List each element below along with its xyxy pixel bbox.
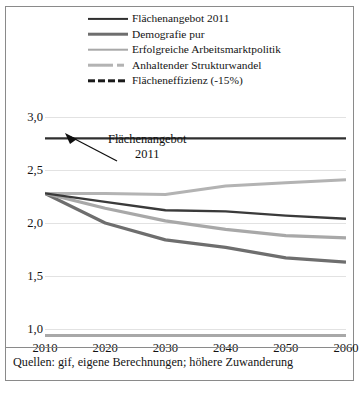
- x-axis-line: [45, 334, 346, 337]
- x-axis-ticklabel: 2010: [32, 341, 57, 356]
- legend-swatch-arbeitsmarktpolitik-icon: [88, 43, 128, 57]
- legend-swatch-flaechenangebot-icon: [88, 12, 128, 26]
- legend-item: Demografie pur: [6, 27, 353, 43]
- y-axis-ticklabel: 2,5: [27, 163, 43, 178]
- annotation-line1: Flächenangebot: [108, 132, 186, 147]
- legend-label: Erfolgreiche Arbeitsmarktpolitik: [132, 44, 281, 55]
- y-axis-ticklabel: 2,0: [27, 216, 43, 231]
- x-axis-ticklabel: 2050: [273, 341, 298, 356]
- legend-item: Flächeneffizienz (-15%): [6, 73, 353, 89]
- annotation-line2: 2011: [108, 147, 186, 162]
- x-axis-ticklabel: 2020: [93, 341, 118, 356]
- y-axis-ticklabel: 1,5: [27, 268, 43, 283]
- footer-divider: [6, 347, 353, 348]
- legend-item: Erfolgreiche Arbeitsmarktpolitik: [6, 42, 353, 58]
- legend-item: Flächenangebot 2011: [6, 11, 353, 27]
- legend-label: Demografie pur: [132, 29, 204, 40]
- x-axis-ticklabel: 2030: [153, 341, 178, 356]
- chart-legend: Flächenangebot 2011 Demografie pur Erfol…: [6, 11, 353, 89]
- figure-frame: Flächenangebot 2011 Demografie pur Erfol…: [5, 6, 354, 381]
- x-axis-ticklabel: 2060: [333, 341, 358, 356]
- y-axis-ticklabel: 3,0: [27, 110, 43, 125]
- legend-label: Flächeneffizienz (-15%): [132, 75, 243, 86]
- legend-label: Anhaltender Strukturwandel: [132, 60, 261, 71]
- source-note: Quellen: gif, eigene Berechnungen; höher…: [13, 355, 293, 370]
- legend-swatch-flaecheneffizienz-icon: [88, 74, 128, 88]
- legend-item: Anhaltender Strukturwandel: [6, 58, 353, 74]
- series-line: [45, 180, 346, 195]
- x-axis-ticklabel: 2040: [213, 341, 238, 356]
- legend-swatch-strukturwandel-icon: [88, 58, 128, 72]
- legend-swatch-demografie-icon: [88, 27, 128, 41]
- y-axis-ticklabel: 1,0: [27, 321, 43, 336]
- annotation-flaechenangebot-2011: Flächenangebot 2011: [108, 132, 186, 162]
- legend-label: Flächenangebot 2011: [132, 13, 229, 24]
